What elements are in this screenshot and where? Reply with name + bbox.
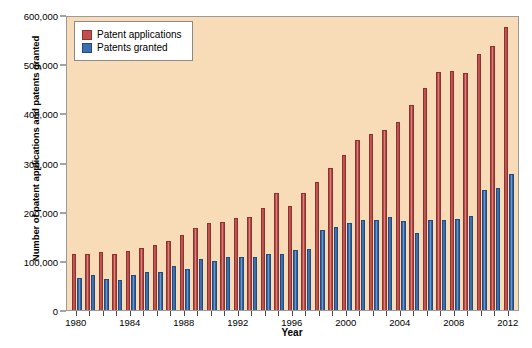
x-tick-mark (373, 311, 374, 316)
x-tick-mark (292, 311, 293, 316)
legend-swatch-icon (82, 43, 92, 53)
x-tick-mark (184, 311, 185, 316)
x-tick-mark (103, 311, 104, 316)
x-tick-mark (157, 311, 158, 316)
x-tick-mark (197, 311, 198, 316)
x-tick-mark (359, 311, 360, 316)
patent-bar-chart: Number of patent applications and patent… (0, 0, 532, 348)
x-tick-mark (454, 311, 455, 316)
x-tick-mark (467, 311, 468, 316)
x-tick-mark (413, 311, 414, 316)
x-tick-mark (319, 311, 320, 316)
legend-swatch-icon (82, 30, 92, 40)
x-tick-mark (251, 311, 252, 316)
x-tick-mark (400, 311, 401, 316)
x-tick-mark (332, 311, 333, 316)
x-tick-mark (224, 311, 225, 316)
x-tick-mark (481, 311, 482, 316)
x-tick-mark (76, 311, 77, 316)
x-tick-mark (211, 311, 212, 316)
legend-item: Patent applications (82, 29, 182, 40)
legend-label: Patents granted (97, 42, 168, 53)
x-axis-title: Year (72, 327, 512, 338)
x-tick-mark (508, 311, 509, 316)
chart-legend: Patent applicationsPatents granted (74, 21, 193, 61)
legend-label: Patent applications (97, 29, 182, 40)
x-tick-mark (265, 311, 266, 316)
x-tick-mark (440, 311, 441, 316)
x-tick-mark (305, 311, 306, 316)
x-tick-mark (386, 311, 387, 316)
x-tick-mark (238, 311, 239, 316)
x-tick-mark (278, 311, 279, 316)
x-tick-mark (427, 311, 428, 316)
legend-item: Patents granted (82, 42, 182, 53)
x-tick-mark (130, 311, 131, 316)
x-tick-mark (89, 311, 90, 316)
x-tick-mark (170, 311, 171, 316)
x-tick-mark (116, 311, 117, 316)
x-tick-mark (494, 311, 495, 316)
x-tick-mark (143, 311, 144, 316)
x-tick-mark (346, 311, 347, 316)
